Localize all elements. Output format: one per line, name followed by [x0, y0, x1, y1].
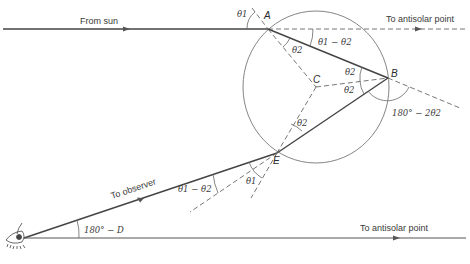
sun-ray-arrow-icon — [123, 27, 130, 32]
angle-deflection-B: 180° − 2θ2 — [392, 108, 441, 118]
eye-icon — [6, 223, 25, 249]
point-B-label: B — [391, 68, 398, 79]
arc-theta1-theta2-E — [213, 174, 218, 193]
arc-theta2-B-lower — [360, 81, 364, 94]
radius-CA — [268, 29, 316, 87]
arc-observer-angle — [77, 220, 79, 238]
angle-theta1-theta2-A: θ1 − θ2 — [318, 37, 352, 47]
angle-observer: 180° − D — [84, 225, 124, 235]
to-antisolar-top-label: To antisolar point — [386, 14, 455, 24]
to-antisolar-bottom-label: To antisolar point — [360, 223, 429, 233]
arc-theta2-B-upper — [360, 67, 362, 81]
emerging-ray-to-observer — [24, 153, 277, 238]
angle-theta2-A: θ2 — [292, 45, 303, 55]
angle-theta1-theta2-E: θ1 − θ2 — [178, 184, 212, 194]
from-sun-label: From sun — [80, 16, 118, 26]
arc-theta2-A — [283, 38, 290, 47]
BE-extension-dashed — [190, 153, 277, 212]
to-observer-label: To observer — [109, 176, 157, 200]
rainbow-geometry-diagram: From sun To antisolar point To observer … — [0, 0, 470, 264]
antisolar-bottom-arrow-icon — [393, 236, 400, 241]
angle-theta1-A: θ1 — [237, 9, 248, 19]
point-C-label: C — [313, 74, 321, 85]
angle-theta2-E: θ2 — [297, 118, 308, 128]
angle-theta2-B-upper: θ2 — [345, 67, 356, 77]
point-E-label: E — [273, 155, 280, 166]
arc-theta1-theta2-A — [310, 29, 313, 46]
angle-theta2-B-lower: θ2 — [344, 85, 355, 95]
reflected-ray-BE — [277, 78, 388, 153]
angle-theta1-E: θ1 — [246, 176, 257, 186]
AB-extension-dashed — [388, 78, 460, 108]
point-A-label: A — [263, 10, 271, 21]
arc-theta1-A — [247, 12, 255, 29]
antisolar-top-arrow-icon — [415, 27, 422, 32]
